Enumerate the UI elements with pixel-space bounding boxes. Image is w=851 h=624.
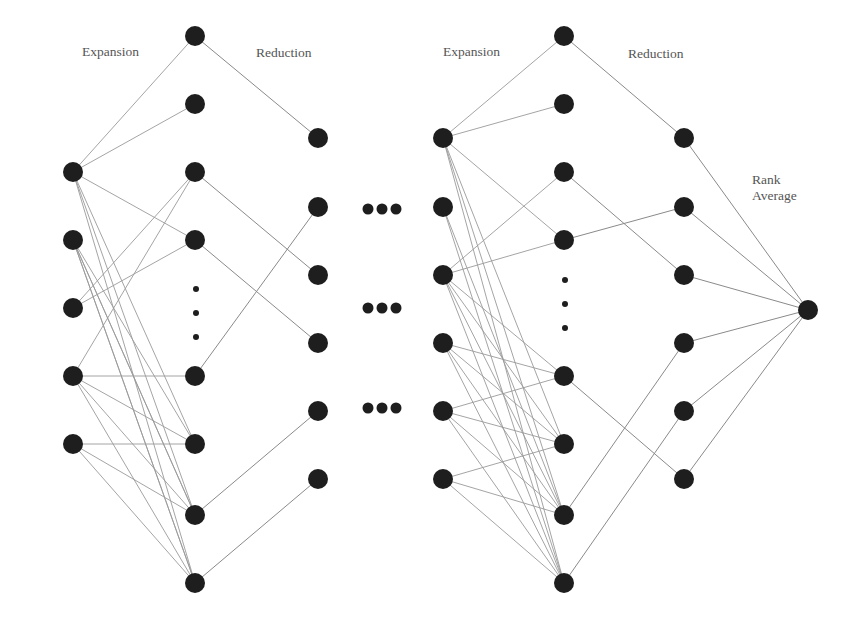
horizontal-ellipsis-dot <box>391 204 402 215</box>
expanded-node-2 <box>554 230 574 250</box>
expansion-edge <box>73 172 195 240</box>
horizontal-ellipsis-dot <box>377 303 388 314</box>
expansion-label-2: Expansion <box>443 44 500 60</box>
horizontal-ellipsis-dot <box>377 204 388 215</box>
rank-average-edge <box>684 310 808 411</box>
reduced-node-2 <box>674 197 694 217</box>
vertical-ellipsis-dot <box>562 277 568 283</box>
input-node <box>63 298 83 318</box>
expanded-node <box>185 366 205 386</box>
horizontal-ellipsis-dot <box>391 303 402 314</box>
reduced-node <box>308 401 328 421</box>
reduced-node <box>308 128 328 148</box>
expansion-edge <box>73 172 195 308</box>
edges-layer <box>73 36 808 583</box>
expanded-node-2 <box>554 434 574 454</box>
expansion-edge <box>73 172 195 376</box>
expansion-edge <box>443 479 564 515</box>
expanded-node <box>185 230 205 250</box>
expanded-node-2 <box>554 366 574 386</box>
input-node <box>63 162 83 182</box>
expansion-edge <box>443 376 564 411</box>
expanded-node-2 <box>554 94 574 114</box>
network-graph <box>0 0 851 624</box>
reduction-edge <box>564 343 684 515</box>
rank-average-edge <box>684 310 808 343</box>
expansion-edge <box>73 172 195 444</box>
expansion-edge <box>443 240 564 275</box>
reduction-edge <box>564 207 684 240</box>
expansion-edge <box>443 104 564 138</box>
reduction-label-1: Reduction <box>256 45 312 61</box>
expansion-edge <box>73 240 195 515</box>
vertical-ellipsis-dot <box>562 325 568 331</box>
expanded-node-2 <box>554 26 574 46</box>
expansion-edge <box>73 376 195 444</box>
expanded-node-2 <box>554 505 574 525</box>
rank-average-edge <box>684 207 808 310</box>
vertical-ellipsis-dot <box>193 310 199 316</box>
horizontal-ellipsis-dot <box>363 403 374 414</box>
vertical-ellipsis-dot <box>193 334 199 340</box>
expansion-edge <box>73 444 195 515</box>
expansion-edge <box>443 444 564 479</box>
reduced-node-2 <box>674 128 694 148</box>
expansion-label-1: Expansion <box>82 44 139 60</box>
nodes-layer <box>63 26 818 593</box>
rank-average-node <box>798 300 818 320</box>
reduction-edge <box>195 411 318 515</box>
expansion-edge <box>443 172 564 275</box>
expansion-edge <box>443 343 564 376</box>
rank-average-label: Rank Average <box>752 172 797 203</box>
input-node <box>63 230 83 250</box>
reduction-edge <box>195 207 318 376</box>
input-node-2 <box>433 469 453 489</box>
horizontal-ellipsis-dot <box>391 403 402 414</box>
reduction-edge <box>564 411 684 583</box>
reduced-node-2 <box>674 333 694 353</box>
expansion-edge <box>73 240 195 444</box>
expansion-edge <box>443 411 564 444</box>
reduced-node <box>308 265 328 285</box>
input-node <box>63 434 83 454</box>
reduction-edge <box>195 172 318 275</box>
vertical-ellipsis-dot <box>562 301 568 307</box>
reduced-node-2 <box>674 469 694 489</box>
input-node-2 <box>433 197 453 217</box>
horizontal-ellipsis-dot <box>377 403 388 414</box>
reduced-node <box>308 469 328 489</box>
expansion-edge <box>73 240 195 583</box>
expansion-edge <box>443 138 564 240</box>
ensemble-network-diagram: Expansion Reduction Expansion Reduction … <box>0 0 851 624</box>
expansion-edge <box>443 275 564 515</box>
expanded-node-2 <box>554 573 574 593</box>
reduced-node-2 <box>674 401 694 421</box>
reduced-node-2 <box>674 265 694 285</box>
input-node <box>63 366 83 386</box>
expanded-node-2 <box>554 162 574 182</box>
expansion-edge <box>443 138 564 515</box>
expansion-edge <box>443 411 564 515</box>
reduction-label-2: Reduction <box>628 46 684 62</box>
expanded-node <box>185 434 205 454</box>
reduced-node <box>308 197 328 217</box>
rank-average-edge <box>684 275 808 310</box>
expanded-node <box>185 505 205 525</box>
expanded-node <box>185 573 205 593</box>
expansion-edge <box>443 138 564 444</box>
rank-average-edge <box>684 310 808 479</box>
horizontal-ellipsis-dot <box>363 204 374 215</box>
expanded-node <box>185 94 205 114</box>
reduction-edge <box>564 376 684 479</box>
expanded-node <box>185 26 205 46</box>
input-node-2 <box>433 128 453 148</box>
expanded-node <box>185 162 205 182</box>
expansion-edge <box>443 479 564 583</box>
rank-average-edge <box>684 138 808 310</box>
rank-average-line-1: Rank <box>752 172 797 188</box>
expansion-edge <box>73 376 195 515</box>
reduced-node <box>308 333 328 353</box>
expansion-edge <box>73 172 195 515</box>
expansion-edge <box>73 104 195 172</box>
rank-average-line-2: Average <box>752 188 797 204</box>
